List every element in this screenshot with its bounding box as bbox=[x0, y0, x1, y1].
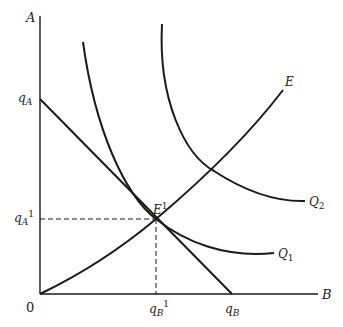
equilibrium-y-label: qA1 bbox=[14, 209, 34, 227]
isoquant-q2-label: Q2 bbox=[309, 195, 325, 211]
origin-label: 0 bbox=[26, 300, 34, 315]
diagram-svg: A B 0 qA qA1 E1 qB1 qB Q1 Q2 E bbox=[0, 0, 343, 327]
diagram-canvas: A B 0 qA qA1 E1 qB1 qB Q1 Q2 E bbox=[0, 0, 343, 327]
y-axis-label: A bbox=[25, 10, 35, 25]
equilibrium-x-label: qB1 bbox=[149, 299, 169, 318]
isoquant-q1 bbox=[83, 42, 274, 254]
isoquant-q1-label: Q1 bbox=[278, 247, 294, 263]
x-axis-label: B bbox=[321, 287, 332, 302]
isoquant-q2 bbox=[162, 24, 305, 201]
y-intercept-label: qA bbox=[18, 91, 33, 107]
x-intercept-label: qB bbox=[225, 302, 240, 318]
expansion-path-label: E bbox=[284, 75, 294, 89]
equilibrium-point-label: E1 bbox=[152, 201, 168, 217]
expansion-path-e bbox=[40, 90, 283, 294]
